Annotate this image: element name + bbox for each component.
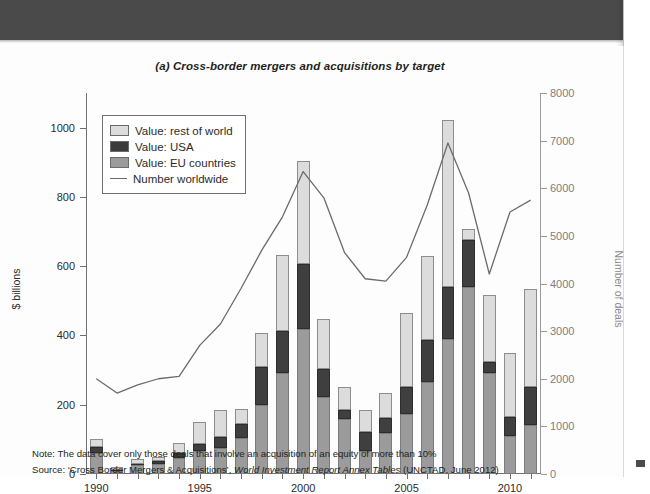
- y-axis-right-title: Number of deals: [613, 250, 625, 327]
- chart-legend: Value: rest of world Value: USA Value: E…: [102, 115, 246, 194]
- legend-item-rest-of-world: Value: rest of world: [110, 123, 236, 138]
- y-axis-right-tick-label: 5000: [550, 230, 574, 242]
- legend-swatch-line-icon: [110, 174, 127, 183]
- note-prefix: Note:: [32, 448, 57, 459]
- y-axis-right-tick: [541, 284, 547, 285]
- x-axis-tick-label: 2000: [291, 482, 315, 494]
- page-right-gutter: [623, 0, 650, 477]
- figure: (a) Cross-border mergers and acquisition…: [0, 46, 624, 477]
- legend-label-usa: Value: USA: [135, 141, 194, 153]
- y-axis-right-tick: [541, 188, 547, 189]
- y-axis-right-tick-label: 4000: [550, 278, 574, 290]
- y-axis-left-tick-label: 600: [57, 260, 75, 272]
- y-axis-right-tick-label: 7000: [550, 135, 574, 147]
- source-prefix: Source:: [32, 464, 68, 475]
- x-axis-tick-label: 1990: [84, 482, 108, 494]
- top-banner: [0, 0, 624, 40]
- figure-notes: Note: The data cover only those deals th…: [32, 448, 592, 480]
- legend-label-number-worldwide: Number worldwide: [133, 173, 228, 185]
- y-axis-right-tick-label: 2000: [550, 373, 574, 385]
- y-axis-right-tick: [541, 331, 547, 332]
- source-text-b: (UNCTAD, June 2012): [400, 464, 498, 475]
- banner-shadow: [0, 40, 626, 43]
- x-axis-tick-label: 2005: [394, 482, 418, 494]
- y-axis-right-tick: [541, 93, 547, 94]
- note-line: Note: The data cover only those deals th…: [32, 448, 592, 459]
- figure-title: (a) Cross-border mergers and acquisition…: [0, 60, 600, 72]
- source-text-italic: World Investment Report Annex Tables: [234, 464, 400, 475]
- plot-frame: 02004006008001000 0100020003000400050006…: [86, 93, 541, 474]
- source-text-a: ‘Cross Border Mergers & Acquisitions’,: [68, 464, 234, 475]
- page-edge-marker: [636, 460, 645, 467]
- y-axis-right-tick-label: 3000: [550, 325, 574, 337]
- y-axis-right-tick: [541, 236, 547, 237]
- x-axis-tick-label: 2010: [498, 482, 522, 494]
- legend-swatch-rest-of-world-icon: [110, 125, 129, 136]
- y-axis-left-tick-label: 400: [57, 329, 75, 341]
- legend-item-usa: Value: USA: [110, 139, 236, 154]
- legend-item-number-worldwide: Number worldwide: [110, 171, 236, 186]
- plot-area: 02004006008001000 0100020003000400050006…: [86, 93, 541, 474]
- y-axis-right-tick-label: 8000: [550, 87, 574, 99]
- y-axis-right-tick-label: 6000: [550, 182, 574, 194]
- y-axis-right-tick: [541, 141, 547, 142]
- y-axis-right-tick: [541, 379, 547, 380]
- y-axis-left-tick-label: 800: [57, 191, 75, 203]
- x-axis-tick-label: 1995: [188, 482, 212, 494]
- y-axis-left-title: $ billions: [10, 269, 22, 310]
- legend-label-eu-countries: Value: EU countries: [135, 157, 236, 169]
- y-axis-right-tick-label: 1000: [550, 420, 574, 432]
- legend-label-rest-of-world: Value: rest of world: [135, 125, 233, 137]
- legend-swatch-usa-icon: [110, 141, 129, 152]
- note-text: The data cover only those deals that inv…: [57, 448, 436, 459]
- y-axis-left-tick-label: 1000: [51, 122, 75, 134]
- source-line: Source: ‘Cross Border Mergers & Acquisit…: [32, 464, 592, 475]
- y-axis-left-tick-label: 200: [57, 399, 75, 411]
- legend-item-eu-countries: Value: EU countries: [110, 155, 236, 170]
- legend-swatch-eu-countries-icon: [110, 157, 129, 168]
- page-corner-shadow: [616, 0, 624, 46]
- y-axis-right-tick: [541, 426, 547, 427]
